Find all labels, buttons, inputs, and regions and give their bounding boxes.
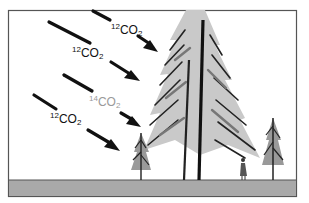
subscript-number: 2 [116,101,120,110]
isotope-number: 12 [50,111,59,120]
co2-label-3: 14CO2 [89,96,120,108]
co2-label-1: 12CO2 [111,24,142,36]
molecule-text: CO [120,23,138,37]
co2-label-4: 12CO2 [50,113,81,125]
isotope-number: 14 [89,94,98,103]
illustration-svg [0,0,309,203]
subscript-number: 2 [138,29,142,38]
ground [9,180,296,196]
diagram-canvas: 12CO2 12CO2 14CO2 12CO2 [0,0,309,203]
subscript-number: 2 [77,118,81,127]
isotope-number: 12 [72,45,81,54]
frame-border [9,11,297,197]
molecule-text: CO [59,112,77,126]
co2-label-2: 12CO2 [72,47,103,59]
molecule-text: CO [98,95,116,109]
molecule-text: CO [81,46,99,60]
isotope-number: 12 [111,22,120,31]
subscript-number: 2 [99,52,103,61]
